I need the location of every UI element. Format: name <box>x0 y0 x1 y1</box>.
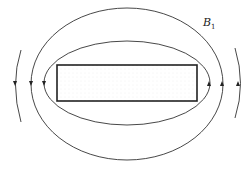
label-text: B <box>203 16 211 29</box>
arrow-up-icon <box>207 81 240 86</box>
field-diagram: B1 <box>0 0 252 169</box>
arrow-down-icon <box>13 81 46 86</box>
magnet-bar <box>57 65 197 101</box>
label-subscript: 1 <box>211 23 215 31</box>
field-label-b1: B1 <box>203 16 216 31</box>
field-line-left-arc <box>16 50 22 122</box>
